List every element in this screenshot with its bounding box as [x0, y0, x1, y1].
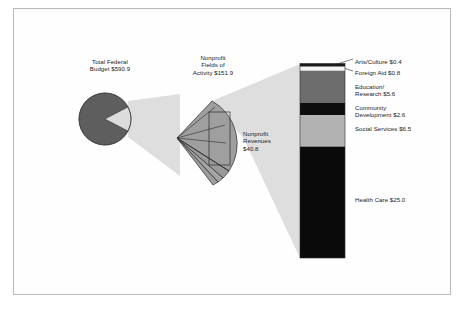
stacked-bar	[300, 64, 345, 259]
bar-segment-education-research	[300, 71, 345, 103]
figure-root: Total Federal Budget $590.9 Nonprofit Fi…	[0, 0, 463, 312]
callout-social-services: Social Services $6.5	[355, 125, 455, 132]
callout-community-development: Community Development $2.6	[355, 104, 455, 119]
bar-segment-foreign-aid	[300, 67, 345, 71]
leader-line-foreign-aid	[345, 69, 353, 72]
bar-segment-community-development	[300, 103, 345, 115]
cone-pie-to-fan	[128, 94, 180, 176]
callout-foreign-aid: Foreign Aid $0.8	[355, 69, 455, 76]
bar-segment-social-services	[300, 115, 345, 147]
label-nonprofit-revenues: Nonprofit Revenues $40.8	[243, 130, 303, 152]
bar-segment-health-care	[300, 147, 345, 258]
callout-arts-culture: Arts/Culture $0.4	[355, 58, 455, 65]
figure-graphics	[0, 0, 463, 312]
label-nonprofit-fields-of-activity: Nonprofit Fields of Activity $151.9	[178, 54, 248, 76]
bar-segment-arts-culture	[300, 64, 345, 67]
callout-education-research: Education/ Research $5.6	[355, 83, 455, 98]
pie-inset	[79, 93, 131, 145]
callout-health-care: Health Care $25.0	[355, 196, 455, 203]
label-total-federal-budget: Total Federal Budget $590.9	[68, 58, 152, 73]
